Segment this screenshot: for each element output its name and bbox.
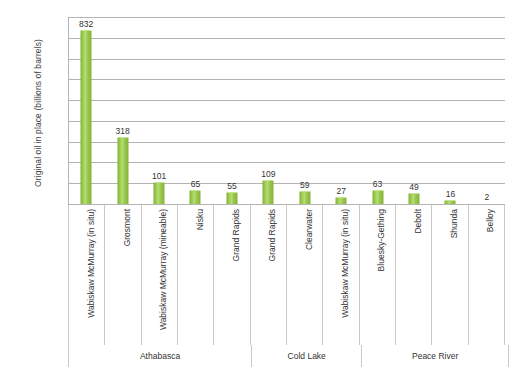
category-cell: Grand Rapids — [214, 205, 250, 345]
bar — [190, 190, 201, 205]
category-label: Wabiskaw McMurray (in situ) — [87, 209, 96, 318]
bar-slot: 101 — [141, 17, 177, 204]
bar-value-label: 318 — [116, 126, 130, 136]
category-cell: Debolt — [396, 205, 432, 345]
category-cell: Grand Rapids — [251, 205, 287, 345]
category-cell: Wabiskaw McMurray (in situ) — [68, 205, 105, 345]
category-label: Nisku — [196, 209, 205, 230]
bar — [409, 193, 420, 204]
bar — [226, 192, 237, 204]
bar — [336, 197, 347, 204]
category-cell: Grosmont — [105, 205, 141, 345]
category-label: Belloy — [486, 209, 495, 232]
category-cell: Nisku — [178, 205, 214, 345]
bar-slot: 65 — [177, 17, 213, 204]
category-cell: Belloy — [469, 205, 505, 345]
group-label: Athabasca — [68, 345, 252, 367]
bar-value-label: 49 — [409, 182, 418, 192]
bar — [299, 191, 310, 204]
category-label: Bluesky-Gething — [377, 209, 386, 271]
group-label: Peace River — [362, 345, 509, 367]
bar-value-label: 109 — [261, 169, 275, 179]
bar-value-label: 16 — [446, 189, 455, 199]
bar-slot: 2 — [469, 17, 505, 204]
bar — [154, 182, 165, 204]
bar — [263, 180, 274, 204]
bar-value-label: 832 — [79, 19, 93, 29]
category-label: Debolt — [414, 209, 423, 234]
bar-value-label: 2 — [484, 192, 489, 202]
category-cell: Shunda — [432, 205, 468, 345]
bar-slot: 55 — [214, 17, 250, 204]
bar-slot: 63 — [359, 17, 395, 204]
bar-chart: Original oil in place (billions of barre… — [0, 0, 527, 381]
bar — [117, 137, 128, 204]
category-cell: Bluesky-Gething — [360, 205, 396, 345]
bar-value-label: 59 — [300, 180, 309, 190]
bar-slot: 318 — [104, 17, 140, 204]
bar-slot: 59 — [287, 17, 323, 204]
category-label: Shunda — [450, 209, 459, 238]
bar-slot: 109 — [250, 17, 286, 204]
category-label: Clearwater — [305, 209, 314, 250]
bar-value-label: 55 — [227, 181, 236, 191]
category-label: Grosmont — [123, 209, 132, 246]
category-label: Wabiskaw McMurray (in situ) — [341, 209, 350, 318]
bar-series: 832318101655510959276349162 — [68, 17, 505, 204]
bar — [372, 190, 383, 204]
category-label: Grand Rapids — [232, 209, 241, 261]
category-label: Wabiskaw McMurray (mineable) — [159, 209, 168, 330]
bar-slot: 16 — [432, 17, 468, 204]
bar-value-label: 63 — [373, 179, 382, 189]
category-cell: Wabiskaw McMurray (in situ) — [323, 205, 359, 345]
category-cell: Clearwater — [287, 205, 323, 345]
bar-value-label: 101 — [152, 171, 166, 181]
y-axis-title: Original oil in place (billions of barre… — [33, 13, 43, 213]
group-label-band: AthabascaCold LakePeace River — [68, 345, 505, 371]
bar-value-label: 27 — [336, 186, 345, 196]
group-label: Cold Lake — [252, 345, 362, 367]
category-cell: Wabiskaw McMurray (mineable) — [142, 205, 178, 345]
bar-slot: 49 — [396, 17, 432, 204]
category-label-band: Wabiskaw McMurray (in situ)GrosmontWabis… — [68, 205, 505, 345]
bar — [81, 30, 92, 204]
bar-slot: 27 — [323, 17, 359, 204]
bar-value-label: 65 — [191, 179, 200, 189]
bar-slot: 832 — [68, 17, 104, 204]
category-label: Grand Rapids — [268, 209, 277, 261]
bar — [445, 200, 456, 204]
